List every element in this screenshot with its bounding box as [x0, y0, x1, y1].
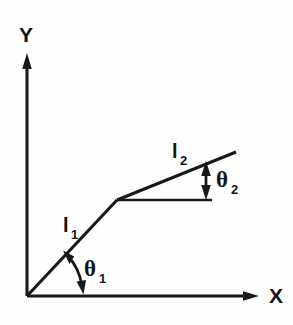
angle-theta-1-group: θ 1	[63, 251, 106, 295]
segment-l2-subscript: 2	[180, 153, 187, 168]
angle-theta-2-label: θ	[216, 167, 228, 192]
segment-l1-label: l	[63, 214, 69, 236]
angle-theta-2-subscript: 2	[231, 182, 238, 197]
figure-container: Y X l 1 l 2 θ 1	[0, 0, 293, 325]
angle-theta-1-label: θ	[84, 256, 96, 281]
angle-theta-2-group: θ 2	[201, 161, 238, 200]
y-axis-label: Y	[19, 23, 33, 46]
x-axis-label: X	[269, 284, 283, 307]
angle-theta-1-subscript: 1	[99, 271, 106, 286]
segment-l1-subscript: 1	[71, 227, 78, 242]
angle-theta-2-lower-arrowhead-icon	[201, 185, 211, 200]
x-axis-group: X	[27, 284, 283, 307]
x-axis-arrowhead-icon	[243, 291, 259, 301]
angle-theta-1-lower-arrowhead-icon	[77, 280, 87, 295]
y-axis-arrowhead-icon	[22, 53, 32, 69]
segment-l2-label: l	[172, 140, 178, 162]
y-axis-group: Y	[19, 23, 33, 296]
line-angle-diagram: Y X l 1 l 2 θ 1	[0, 0, 293, 325]
